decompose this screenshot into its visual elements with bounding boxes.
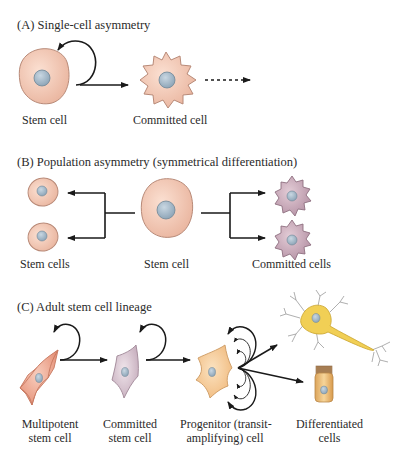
label-c-differentiated: Differentiated cells bbox=[292, 417, 367, 445]
to-neuron-arrow bbox=[238, 345, 277, 368]
panel-b bbox=[25, 175, 311, 260]
label-a-stem-cell: Stem cell bbox=[22, 113, 67, 127]
branch-right bbox=[201, 193, 230, 238]
multipotent-self-renewal-arrow bbox=[54, 324, 80, 360]
stem-cell-small-bottom-icon bbox=[25, 220, 61, 255]
branch-left bbox=[105, 193, 135, 238]
stem-cell-icon bbox=[19, 49, 69, 104]
label-c-multipotent: Multipotent stem cell bbox=[20, 417, 80, 445]
epithelial-cell-icon bbox=[315, 366, 333, 402]
label-a-committed-cell: Committed cell bbox=[133, 113, 207, 127]
committed-cell-top-icon bbox=[275, 176, 311, 216]
panel-b-title: (B) Population asymmetry (symmetrical di… bbox=[17, 155, 297, 170]
committed-cell-bottom-icon bbox=[275, 220, 311, 260]
stem-cell-small-top-icon bbox=[25, 175, 61, 210]
panel-a bbox=[19, 41, 250, 108]
stem-cell-large-icon bbox=[141, 179, 192, 238]
label-b-stem-cells: Stem cells bbox=[20, 257, 70, 271]
committed-cell-icon bbox=[140, 52, 196, 108]
panel-a-title: (A) Single-cell asymmetry bbox=[17, 18, 150, 33]
progenitor-cell-icon bbox=[196, 345, 232, 398]
committed-stem-cell-icon bbox=[112, 345, 138, 398]
label-b-stem-cell: Stem cell bbox=[144, 257, 189, 271]
neuron-icon bbox=[280, 290, 390, 366]
label-c-committed: Committed stem cell bbox=[100, 417, 160, 445]
stem-cell-diagram bbox=[0, 0, 404, 455]
multipotent-stem-cell-icon bbox=[20, 350, 58, 405]
label-c-progenitor: Progenitor (transit- amplifying) cell bbox=[180, 417, 270, 445]
committed-self-renewal-arrow bbox=[140, 324, 166, 360]
label-b-committed-cells: Committed cells bbox=[252, 257, 331, 271]
panel-c-title: (C) Adult stem cell lineage bbox=[17, 300, 152, 315]
